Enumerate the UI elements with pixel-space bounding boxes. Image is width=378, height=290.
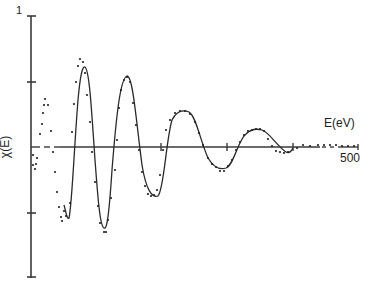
- x-axis-label: E(eV): [324, 116, 355, 130]
- y-axis-label: χ(E): [0, 136, 12, 158]
- y-tick-label-top: 1: [16, 4, 22, 16]
- zero-line: [31, 143, 358, 151]
- data-points: [32, 58, 355, 233]
- exafs-chart: [0, 0, 378, 290]
- x-tick-label-end: 500: [340, 151, 360, 165]
